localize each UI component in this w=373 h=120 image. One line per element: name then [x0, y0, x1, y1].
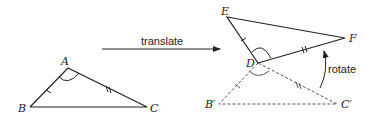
triangle-abc	[30, 68, 147, 107]
tick-mark-ab	[46, 90, 51, 93]
translated-triangle-dashed	[219, 63, 337, 104]
rotate-arrow	[320, 51, 326, 88]
angle-arc-d-lower	[249, 71, 269, 76]
label-vertex-d: D	[245, 57, 255, 70]
label-vertex-e: E	[220, 5, 229, 18]
geometry-diagram: A B C translate E F D B′ C′ rotate	[0, 0, 373, 120]
angle-arc-d-upper	[252, 48, 271, 58]
triangle-def	[227, 17, 345, 63]
rotate-label: rotate	[328, 63, 356, 75]
tick-mark-ac-2	[109, 87, 111, 93]
label-vertex-b: B	[17, 102, 26, 115]
tick-mark-dc-2	[299, 83, 301, 89]
label-vertex-c-prime: C′	[341, 98, 352, 111]
tick-mark-dc-1	[296, 82, 298, 88]
label-vertex-c: C	[150, 102, 159, 115]
translate-label: translate	[141, 35, 183, 47]
label-vertex-f: F	[348, 32, 357, 45]
label-vertex-a: A	[60, 55, 69, 68]
label-vertex-b-prime: B′	[204, 98, 216, 111]
